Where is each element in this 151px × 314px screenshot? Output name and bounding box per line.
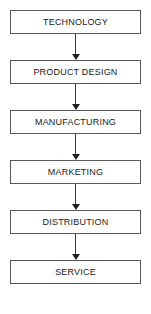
flow-stage: MANUFACTURING (0, 110, 151, 134)
flow-node-label: MARKETING (48, 168, 103, 177)
flow-arrow-technology-to-product-design (0, 34, 151, 60)
flow-node-label: PRODUCT DESIGN (33, 68, 117, 77)
arrow-shaft (75, 34, 76, 55)
flow-stage: MARKETING (0, 160, 151, 184)
flow-node-distribution[interactable]: DISTRIBUTION (10, 210, 141, 234)
arrow-shaft (75, 134, 76, 155)
flow-node-label: TECHNOLOGY (43, 18, 108, 27)
flow-arrow-manufacturing-to-marketing (0, 134, 151, 160)
flow-arrow-marketing-to-distribution (0, 184, 151, 210)
flow-node-label: MANUFACTURING (35, 118, 116, 127)
flow-stage: DISTRIBUTION (0, 210, 151, 234)
arrow-shaft (75, 84, 76, 105)
flow-node-service[interactable]: SERVICE (10, 260, 141, 284)
flowchart-diagram: TECHNOLOGY PRODUCT DESIGN MANUFACTURING … (0, 0, 151, 314)
arrow-shaft (75, 234, 76, 255)
flow-node-marketing[interactable]: MARKETING (10, 160, 141, 184)
flow-node-product-design[interactable]: PRODUCT DESIGN (10, 60, 141, 84)
flow-node-manufacturing[interactable]: MANUFACTURING (10, 110, 141, 134)
flow-stage: TECHNOLOGY (0, 10, 151, 34)
flow-node-label: SERVICE (55, 268, 96, 277)
flow-stage: PRODUCT DESIGN (0, 60, 151, 84)
flow-node-label: DISTRIBUTION (43, 218, 109, 227)
arrow-shaft (75, 184, 76, 205)
flow-node-technology[interactable]: TECHNOLOGY (10, 10, 141, 34)
flow-arrow-product-design-to-manufacturing (0, 84, 151, 110)
flow-stage: SERVICE (0, 260, 151, 284)
flow-arrow-distribution-to-service (0, 234, 151, 260)
